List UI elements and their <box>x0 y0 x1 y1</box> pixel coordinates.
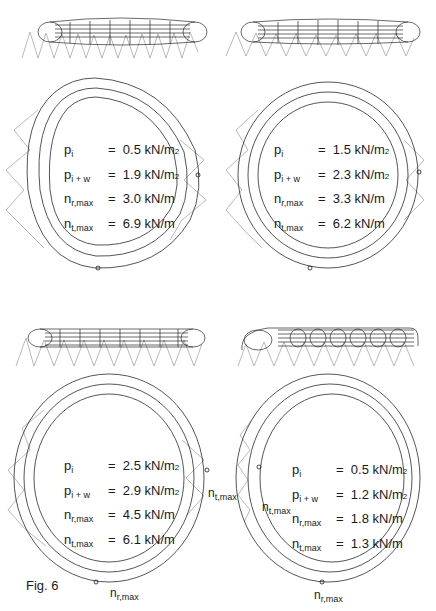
param-piw: pi + w= 2.9 kN/m2 <box>64 481 179 506</box>
param-nrmax: nr,max= 3.0 kN/m <box>64 189 179 214</box>
nr-max-label: nr,max <box>110 586 139 602</box>
param-piw: pi + w= 1.2 kN/m2 <box>292 485 407 510</box>
param-ntmax: nt,max= 6.9 kN/m <box>64 214 179 239</box>
panel-bottom-left: pi= 2.5 kN/m2 pi + w= 2.9 kN/m2 nr,max= … <box>0 310 218 611</box>
param-piw: pi + w= 1.9 kN/m2 <box>64 165 179 190</box>
parameter-legend: pi= 1.5 kN/m2 pi + w= 2.3 kN/m2 nr,max= … <box>274 140 389 238</box>
parameter-legend: pi= 0.5 kN/m2 pi + w= 1.9 kN/m2 nr,max= … <box>64 140 179 238</box>
param-nrmax: nr,max= 4.5 kN/m <box>64 505 179 530</box>
nt-max-marker <box>196 173 200 177</box>
param-pi: pi= 0.5 kN/m2 <box>292 460 407 485</box>
parameter-legend: pi= 2.5 kN/m2 pi + w= 2.9 kN/m2 nr,max= … <box>64 456 179 554</box>
param-ntmax: nt,max= 6.1 kN/m <box>64 530 179 555</box>
param-pi: pi= 2.5 kN/m2 <box>64 456 179 481</box>
param-nrmax: nr,max= 3.3 kN/m <box>274 189 389 214</box>
nt-max-label: nt,max <box>262 500 291 516</box>
param-pi: pi= 0.5 kN/m2 <box>64 140 179 165</box>
panel-top-left: pi= 0.5 kN/m2 pi + w= 1.9 kN/m2 nr,max= … <box>0 0 218 300</box>
nr-max-marker <box>94 580 98 584</box>
param-nrmax: nr,max= 1.8 kN/m <box>292 509 407 534</box>
param-pi: pi= 1.5 kN/m2 <box>274 140 389 165</box>
nr-max-label: nr,max <box>314 588 343 604</box>
param-ntmax: nt,max= 6.2 kN/m <box>274 214 389 239</box>
nr-max-marker <box>308 266 312 270</box>
nt-max-marker <box>205 468 209 472</box>
param-piw: pi + w= 2.3 kN/m2 <box>274 165 389 190</box>
parameter-legend: pi= 0.5 kN/m2 pi + w= 1.2 kN/m2 nr,max= … <box>292 460 407 558</box>
panel-bottom-right: nt,max pi= 0.5 kN/m2 pi + w= 1.2 kN/m2 n… <box>218 310 436 611</box>
panel-top-right: pi= 1.5 kN/m2 pi + w= 2.3 kN/m2 nr,max= … <box>218 0 436 300</box>
param-ntmax: nt,max= 1.3 kN/m <box>292 534 407 559</box>
figure-caption: Fig. 6 <box>26 578 59 593</box>
